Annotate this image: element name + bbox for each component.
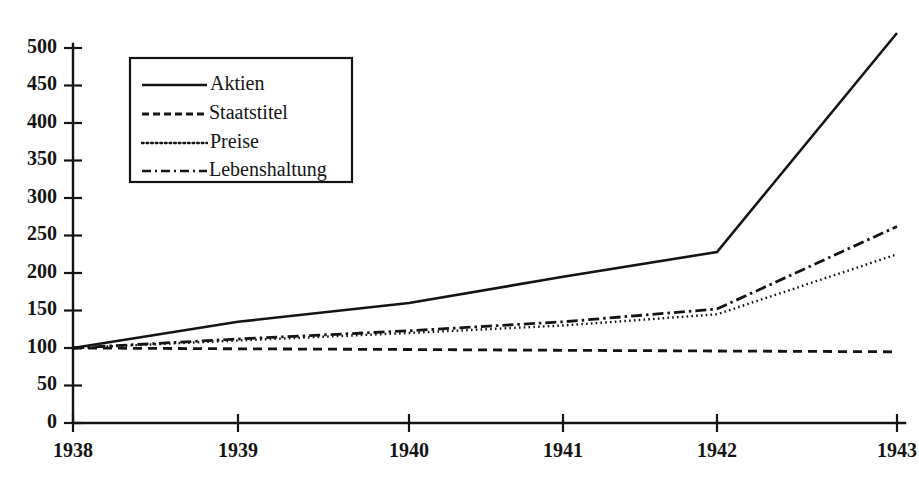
line-chart: 500 450 400 350 300 250 200 150 100 50 0… [0,0,919,497]
y-tick-label: 200 [27,260,57,282]
y-tick-label: 150 [27,297,57,319]
y-tick-label: 500 [27,35,57,57]
series-line-lebenshaltung [73,227,897,349]
x-tick-label: 1942 [697,439,737,461]
x-tick-label: 1940 [389,439,429,461]
y-tick-labels: 500 450 400 350 300 250 200 150 100 50 0 [27,35,57,432]
legend-label: Preise [210,130,259,152]
legend-label: Lebenshaltung [209,158,327,181]
y-tick-label: 300 [27,185,57,207]
y-tick-label: 0 [47,410,57,432]
chart-figure: 500 450 400 350 300 250 200 150 100 50 0… [0,0,919,497]
x-tick-label: 1939 [218,439,258,461]
y-tick-label: 450 [27,72,57,94]
chart-legend: Aktien Staatstitel Preise Lebenshaltung [130,58,352,182]
y-tick-label: 400 [27,110,57,132]
legend-label: Aktien [210,72,264,94]
y-tick-label: 250 [27,222,57,244]
y-tick-label: 100 [27,335,57,357]
series-line-preise [73,254,897,348]
series-line-staatstitel [73,348,897,352]
x-tick-label: 1938 [53,439,93,461]
y-tick-label: 50 [37,372,57,394]
x-tick-label: 1941 [543,439,583,461]
y-tick-label: 350 [27,147,57,169]
x-tick-label: 1943 [877,439,917,461]
x-tick-labels: 1938 1939 1940 1941 1942 1943 [53,439,917,461]
legend-label: Staatstitel [209,101,288,123]
